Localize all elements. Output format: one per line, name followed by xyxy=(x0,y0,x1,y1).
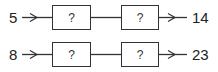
operation-box-1: ? xyxy=(52,42,91,67)
machine-row-2: 8 ? ? 23 xyxy=(0,37,218,72)
operation-box-1: ? xyxy=(52,5,91,30)
connector-lines xyxy=(0,0,218,36)
operation-box-2: ? xyxy=(121,42,159,67)
connector-lines xyxy=(0,37,218,72)
input-value: 5 xyxy=(9,10,17,26)
operation-box-2: ? xyxy=(121,5,159,30)
machine-row-1: 5 ? ? 14 xyxy=(0,0,218,36)
output-value: 23 xyxy=(192,47,209,63)
output-value: 14 xyxy=(192,10,209,26)
input-value: 8 xyxy=(9,47,17,63)
